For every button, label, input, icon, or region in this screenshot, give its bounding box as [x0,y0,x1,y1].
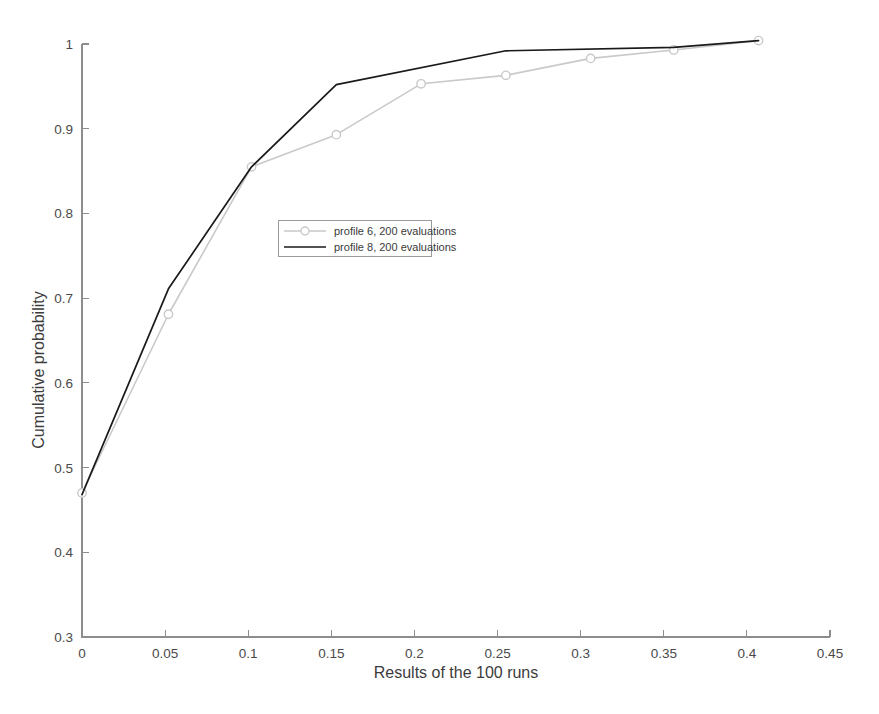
legend-label-1: profile 8, 200 evaluations [334,241,457,253]
chart-legend: profile 6, 200 evaluationsprofile 8, 200… [278,220,457,256]
data-series-group [78,36,763,497]
x-tick-label: 0.4 [737,646,756,661]
chart-figure: 00.050.10.150.20.250.30.350.40.45 0.30.4… [0,0,879,714]
y-axis-title: Cumulative probability [30,291,47,448]
x-tick-label: 0 [78,646,86,661]
x-tick-label: 0.1 [239,646,258,661]
y-tick-label: 1 [65,37,73,52]
y-tick-label: 0.5 [54,461,73,476]
legend-label-0: profile 6, 200 evaluations [334,225,457,237]
y-tick-label: 0.8 [54,206,73,221]
legend-swatch-marker-0 [301,227,309,235]
data-point-marker [332,130,340,138]
data-point-marker [586,54,594,62]
data-point-marker [502,71,510,79]
x-axis-tick-group: 00.050.10.150.20.250.30.350.40.45 [78,630,843,661]
series-line-1 [82,41,759,495]
x-axis-title: Results of the 100 runs [374,664,539,681]
axis-spines [82,44,830,637]
y-tick-label: 0.9 [54,122,73,137]
y-tick-label: 0.6 [54,376,73,391]
x-tick-label: 0.15 [318,646,344,661]
x-tick-label: 0.05 [152,646,178,661]
x-tick-label: 0.35 [651,646,677,661]
x-tick-label: 0.2 [405,646,424,661]
x-tick-label: 0.3 [571,646,590,661]
data-point-marker [164,310,172,318]
y-axis-tick-group: 0.30.40.50.60.70.80.91 [54,37,89,645]
y-tick-label: 0.4 [54,545,73,560]
axis-group [82,44,830,637]
cumulative-probability-line-chart: 00.050.10.150.20.250.30.350.40.45 0.30.4… [0,0,879,714]
data-point-marker [417,80,425,88]
x-tick-label: 0.25 [484,646,510,661]
x-tick-label: 0.45 [817,646,843,661]
y-tick-label: 0.3 [54,630,73,645]
y-tick-label: 0.7 [54,291,73,306]
